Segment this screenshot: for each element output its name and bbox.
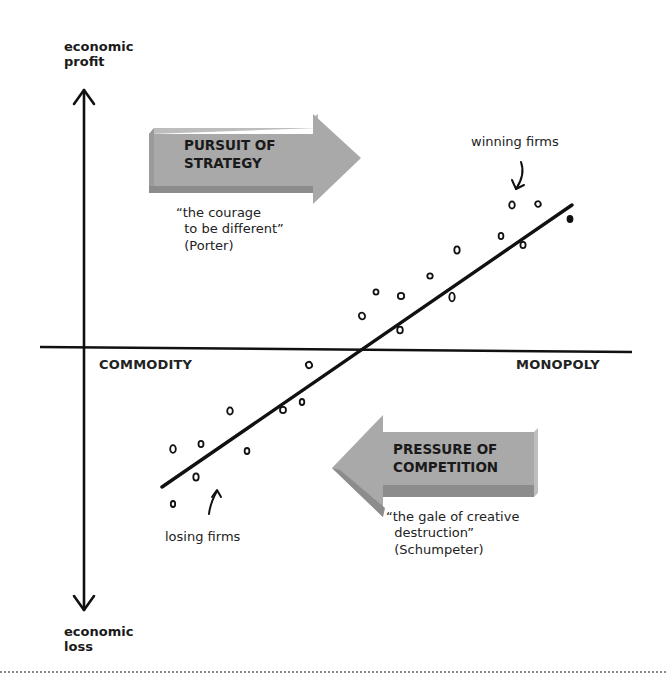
competition-quote: “the gale of creative destruction” (Schu… [386,509,519,558]
firm-point [398,293,404,299]
strategy-quote: “the courage to be different” (Porter) [176,205,284,254]
firm-point [280,407,286,413]
firm-point [509,201,515,208]
firm-point [374,289,379,294]
firm-point [171,501,175,507]
x-axis-left-label: COMMODITY [99,358,192,373]
x-axis [40,347,632,352]
firm-point [170,445,176,453]
losing-firms-label: losing firms [165,530,240,545]
firm-point [520,242,525,248]
winning-pointer-icon [512,162,524,189]
strategy-arrow-title: PURSUIT OF STRATEGY [184,137,276,172]
firm-point [534,200,541,208]
winning-firms-label: winning firms [471,135,559,150]
x-axis-right-label: MONOPOLY [516,358,600,373]
losing-pointer-icon [209,490,221,514]
firm-point [454,246,459,253]
firm-point [449,293,454,302]
y-axis [74,90,94,610]
firm-point [568,216,573,222]
strategy-competition-diagram [0,0,666,679]
firm-point [358,312,367,321]
firm-point [245,448,250,454]
firm-point [499,233,504,239]
firm-point [199,441,204,447]
bottom-divider [0,671,666,673]
firm-point [305,361,313,370]
y-axis-top-label: economic profit [64,40,133,70]
firm-point [427,273,432,278]
firm-point [227,407,233,414]
y-axis-bottom-label: economic loss [64,625,133,655]
competition-arrow-title: PRESSURE OF COMPETITION [393,441,498,476]
firm-point [300,399,305,405]
firm-point [193,473,198,480]
firm-point [397,327,403,334]
